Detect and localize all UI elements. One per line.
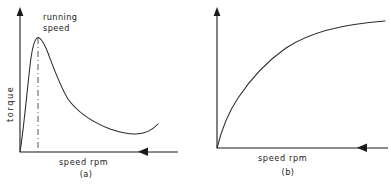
panel-a-annotation-line2: speed xyxy=(43,23,70,33)
panel-b-x-axis-arrowhead-icon xyxy=(357,144,367,152)
panel-a-annotation-line1: running xyxy=(43,12,77,22)
panel-b: speed rpm (b) xyxy=(214,7,388,177)
panel-a-x-axis-arrowhead-icon xyxy=(138,148,148,156)
figure-torque-speed-curves: running speed torque speed rpm (a) speed… xyxy=(0,0,391,184)
panel-b-speed-curve xyxy=(217,21,385,148)
panel-b-caption: (b) xyxy=(282,167,295,177)
panel-b-y-axis-arrowhead-icon xyxy=(214,7,221,16)
panel-a-caption: (a) xyxy=(80,169,93,179)
panel-b-x-axis-label: speed rpm xyxy=(258,153,307,163)
panel-a-torque-curve xyxy=(20,38,158,153)
panel-a-y-axis-arrowhead-icon xyxy=(17,7,24,16)
panel-a-y-axis-label: torque xyxy=(5,86,15,122)
panel-a-x-axis-label: speed rpm xyxy=(59,157,108,167)
panel-a: running speed torque speed rpm (a) xyxy=(5,7,178,179)
